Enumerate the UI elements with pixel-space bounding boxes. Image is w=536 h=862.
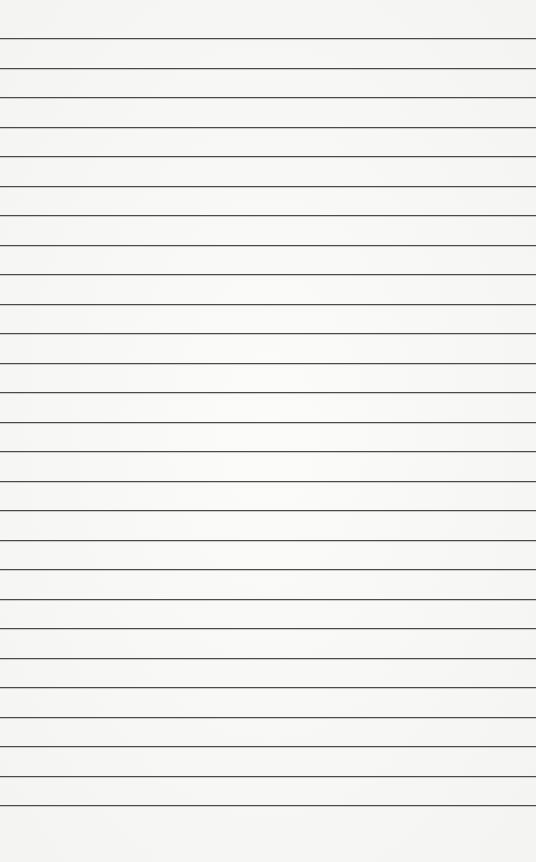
ruled-line: [0, 481, 536, 482]
ruled-line: [0, 245, 536, 246]
ruled-line: [0, 274, 536, 275]
ruled-line: [0, 717, 536, 718]
ruled-line: [0, 68, 536, 69]
ruled-line: [0, 156, 536, 157]
ruled-line: [0, 392, 536, 393]
ruled-line: [0, 451, 536, 452]
ruled-line: [0, 333, 536, 334]
ruled-line: [0, 540, 536, 541]
lined-paper-sheet: [0, 0, 536, 862]
ruled-line: [0, 97, 536, 98]
ruled-line: [0, 186, 536, 187]
ruled-line: [0, 569, 536, 570]
ruled-line: [0, 776, 536, 777]
ruled-line: [0, 658, 536, 659]
ruled-line: [0, 304, 536, 305]
ruled-line: [0, 38, 536, 39]
ruled-line: [0, 599, 536, 600]
ruled-line: [0, 127, 536, 128]
ruled-line: [0, 422, 536, 423]
ruled-line: [0, 215, 536, 216]
ruled-line: [0, 746, 536, 747]
ruled-line: [0, 805, 536, 806]
ruled-line: [0, 628, 536, 629]
ruled-line: [0, 687, 536, 688]
ruled-line: [0, 510, 536, 511]
ruled-line: [0, 363, 536, 364]
